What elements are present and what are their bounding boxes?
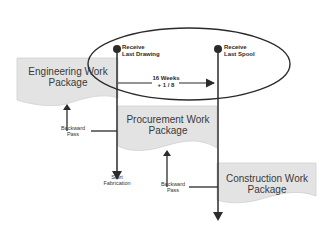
backward-line2: Pass — [155, 187, 191, 193]
milestone-line2: Last Spool — [224, 51, 274, 58]
milestone-line1: Receive — [122, 44, 172, 51]
construction-label-line2: Package — [218, 184, 316, 195]
engineering-label-line2: Package — [20, 77, 116, 88]
start-line2: Fabrication — [97, 180, 137, 186]
receive-last-drawing-label: Receive Last Drawing — [122, 44, 172, 57]
milestone-line2: Last Drawing — [122, 51, 172, 58]
procurement-package-label: Procurement Work Package — [120, 114, 216, 136]
construction-label-line1: Construction Work — [218, 173, 316, 184]
duration-line2: + 1 / 8 — [146, 82, 186, 89]
construction-package-label: Construction Work Package — [218, 173, 316, 195]
receive-last-spool-label: Receive Last Spool — [224, 44, 274, 57]
end-arrowhead — [213, 212, 223, 221]
backward-pass-label-1: Backward Pass — [54, 125, 92, 137]
duration-line1: 16 Weeks — [146, 75, 186, 82]
procurement-label-line2: Package — [120, 125, 216, 136]
backward-pass-label-2: Backward Pass — [155, 181, 191, 193]
backward-line2: Pass — [54, 131, 92, 137]
duration-label: 16 Weeks + 1 / 8 — [146, 75, 186, 88]
start-fabrication-label: Start Fabrication — [97, 174, 137, 186]
engineering-package-label: Engineering Work Package — [20, 66, 116, 88]
engineering-label-line1: Engineering Work — [20, 66, 116, 77]
procurement-label-line1: Procurement Work — [120, 114, 216, 125]
milestone-line1: Receive — [224, 44, 274, 51]
receive-last-drawing-dot — [113, 45, 121, 53]
receive-last-spool-dot — [214, 45, 222, 53]
